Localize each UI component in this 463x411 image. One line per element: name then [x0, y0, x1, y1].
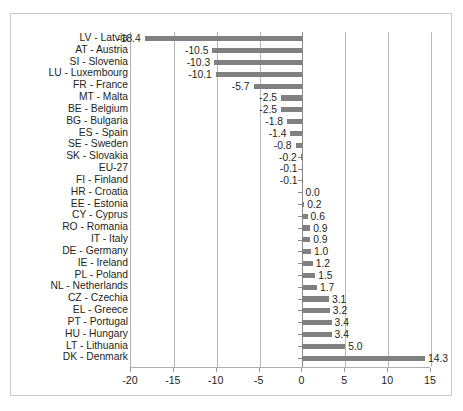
x-axis-tick-label: -10 — [208, 374, 223, 386]
bar[interactable] — [287, 119, 302, 124]
axis-tick — [298, 192, 302, 193]
bar[interactable] — [212, 48, 302, 53]
bar-row: 0.2 — [131, 199, 430, 211]
category-label: SI - Slovenia — [11, 56, 132, 68]
data-label: 0.0 — [305, 187, 319, 198]
x-axis-tick-label: 10 — [381, 374, 393, 386]
bar-row: 1.7 — [131, 281, 430, 293]
data-label: 3.2 — [333, 305, 347, 316]
category-label: DE - Germany — [11, 245, 132, 257]
data-label: 5.0 — [348, 341, 362, 352]
bar[interactable] — [302, 202, 304, 207]
bar-row: 0.0 — [131, 187, 430, 199]
bar[interactable] — [290, 131, 302, 136]
bar-row: 1.0 — [131, 246, 430, 258]
bar[interactable] — [254, 84, 303, 89]
x-axis-tick — [216, 368, 217, 372]
bar[interactable] — [302, 308, 329, 313]
x-axis-tick-label: -20 — [122, 374, 137, 386]
data-label: 1.5 — [318, 270, 332, 281]
bar-row: -10.5 — [131, 45, 430, 57]
data-label: 1.0 — [314, 246, 328, 257]
data-label: -0.1 — [280, 163, 298, 174]
bar-row: 3.2 — [131, 305, 430, 317]
category-label: CY - Cyprus — [11, 209, 132, 221]
bar[interactable] — [302, 296, 329, 301]
bar[interactable] — [302, 225, 310, 230]
category-label: MT - Malta — [11, 91, 132, 103]
bar-row: -0.8 — [131, 139, 430, 151]
category-label: EU-27 — [11, 162, 132, 174]
category-label: HU - Hungary — [11, 328, 132, 340]
bar[interactable] — [145, 36, 303, 41]
bar[interactable] — [302, 344, 345, 349]
data-label: -18.4 — [117, 33, 140, 44]
x-axis-tick-label: 15 — [424, 374, 436, 386]
category-label: IT - Italy — [11, 233, 132, 245]
bar-row: 1.2 — [131, 258, 430, 270]
bar-row: -0.1 — [131, 175, 430, 187]
bar-row: 14.3 — [131, 352, 430, 364]
data-label: 3.1 — [332, 294, 346, 305]
data-label: -5.7 — [232, 81, 250, 92]
bar[interactable] — [214, 60, 302, 65]
category-label: RO - Romania — [11, 221, 132, 233]
bar-row: 5.0 — [131, 341, 430, 353]
bar-row: -18.4 — [131, 33, 430, 45]
bar-row: 0.6 — [131, 210, 430, 222]
category-label: ES - Spain — [11, 127, 132, 139]
category-label: PT - Portugal — [11, 316, 132, 328]
category-label: FR - France — [11, 79, 132, 91]
bar-row: 1.5 — [131, 270, 430, 282]
bar-row: 3.4 — [131, 317, 430, 329]
bar[interactable] — [302, 214, 307, 219]
data-label: 0.9 — [313, 234, 327, 245]
category-label: SK - Slovakia — [11, 150, 132, 162]
bar[interactable] — [302, 261, 312, 266]
category-label: IE - Ireland — [11, 257, 132, 269]
data-label: 1.2 — [316, 258, 330, 269]
data-label: 0.6 — [311, 211, 325, 222]
bar-row: -10.1 — [131, 68, 430, 80]
category-label: BG - Bulgaria — [11, 115, 132, 127]
bar[interactable] — [302, 273, 315, 278]
category-label: LT - Lithuania — [11, 340, 132, 352]
data-label: -0.8 — [274, 140, 292, 151]
data-label: 1.7 — [320, 282, 334, 293]
bar-row: -5.7 — [131, 80, 430, 92]
category-label: EE - Estonia — [11, 198, 132, 210]
bar-row: 0.9 — [131, 222, 430, 234]
bar[interactable] — [302, 178, 303, 183]
bar[interactable] — [302, 332, 331, 337]
gridline — [431, 32, 432, 367]
data-label: -2.5 — [259, 92, 277, 103]
bar-row: -0.1 — [131, 163, 430, 175]
bar-row: -1.4 — [131, 128, 430, 140]
data-label: -2.5 — [259, 104, 277, 115]
x-axis-tick-label: -15 — [165, 374, 180, 386]
bar[interactable] — [302, 166, 303, 171]
data-label: -0.2 — [279, 152, 297, 163]
x-axis-tick — [387, 368, 388, 372]
bar[interactable] — [302, 249, 311, 254]
bar-row: 3.1 — [131, 293, 430, 305]
bar[interactable] — [281, 107, 302, 112]
bar[interactable] — [302, 237, 310, 242]
category-label: SE - Sweden — [11, 138, 132, 150]
bar[interactable] — [301, 154, 303, 159]
bar[interactable] — [302, 285, 317, 290]
x-axis-tick — [130, 368, 131, 372]
x-axis: -20-15-10-5051015 — [130, 368, 430, 394]
data-label: -10.1 — [188, 69, 211, 80]
category-label: FI - Finland — [11, 174, 132, 186]
bar-row: -2.5 — [131, 92, 430, 104]
bar[interactable] — [296, 143, 303, 148]
category-label: DK - Denmark — [11, 351, 132, 363]
bar[interactable] — [281, 95, 302, 100]
bar[interactable] — [302, 320, 331, 325]
bar[interactable] — [216, 72, 303, 77]
category-label: LU - Luxembourg — [11, 67, 132, 79]
bar[interactable] — [302, 356, 425, 361]
plot-area: -18.4-10.5-10.3-10.1-5.7-2.5-2.5-1.8-1.4… — [130, 32, 430, 368]
data-label: 14.3 — [428, 353, 448, 364]
